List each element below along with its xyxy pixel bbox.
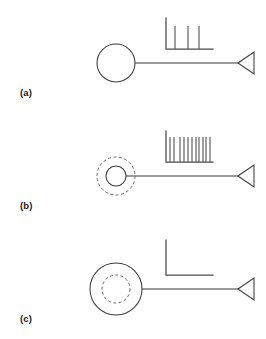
panel-c: (c) — [0, 226, 266, 339]
panel-c-graphic — [0, 226, 266, 339]
raster-axis-a — [166, 18, 213, 49]
panel-a-raster — [166, 18, 213, 49]
panel-b-neuron — [97, 157, 254, 195]
panel-b-graphic — [0, 113, 266, 226]
spike-train-a — [175, 26, 199, 49]
axon-terminal-a — [238, 52, 254, 74]
panel-c-neuron — [90, 263, 254, 315]
panel-b: (b) — [0, 113, 266, 226]
soma-b — [106, 166, 126, 186]
soma-a — [97, 44, 135, 82]
panel-c-raster — [166, 240, 213, 275]
panel-label-c: (c) — [20, 314, 32, 324]
soma-inner-ring-c — [102, 275, 130, 303]
spike-train-b — [170, 137, 210, 162]
panel-a-neuron — [97, 44, 254, 82]
panel-label-a: (a) — [20, 88, 32, 98]
panel-a-graphic — [0, 0, 266, 113]
soma-c — [90, 263, 142, 315]
raster-axis-c — [166, 240, 213, 275]
figure-root: (a) — [0, 0, 266, 339]
axon-terminal-b — [238, 165, 254, 187]
panel-b-raster — [166, 131, 213, 162]
axon-terminal-c — [238, 278, 254, 300]
panel-a: (a) — [0, 0, 266, 113]
panel-label-b: (b) — [20, 201, 33, 211]
